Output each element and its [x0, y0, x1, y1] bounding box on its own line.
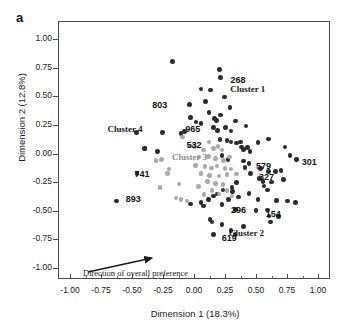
preference-arrow-label: Direction of overall preference — [83, 268, 188, 278]
annotation-arrow — [0, 0, 350, 336]
x-axis-label: Dimension 1 (18.3%) — [95, 308, 295, 319]
y-axis-label: Dimension 2 (12.8%) — [16, 43, 27, 193]
